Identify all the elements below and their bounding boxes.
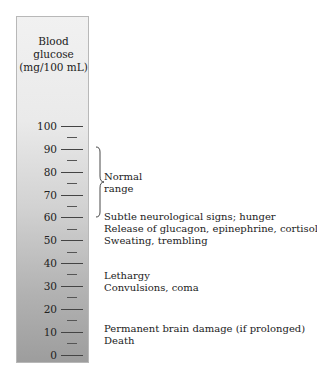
scale-title-line: Blood xyxy=(17,35,90,48)
minor-tick xyxy=(67,229,77,230)
note-line: Permanent brain damage (if prolonged) xyxy=(104,323,305,335)
tick-label: 60 xyxy=(17,211,57,223)
symptoms-60: Subtle neurological signs; hunger Releas… xyxy=(104,211,317,247)
minor-tick xyxy=(67,137,77,138)
tick-label: 10 xyxy=(17,326,57,338)
tick-label: 80 xyxy=(17,166,57,178)
major-tick xyxy=(61,217,83,218)
minor-tick xyxy=(67,343,77,344)
note-line: Lethargy xyxy=(104,270,199,282)
tick-label: 50 xyxy=(17,234,57,246)
note-line: Subtle neurological signs; hunger xyxy=(104,211,317,223)
major-tick xyxy=(61,309,83,310)
major-tick xyxy=(61,286,83,287)
note-line: Release of glucagon, epinephrine, cortis… xyxy=(104,223,317,235)
minor-tick xyxy=(67,252,77,253)
tick-label: 0 xyxy=(17,349,57,361)
major-tick xyxy=(61,149,83,150)
minor-tick xyxy=(67,183,77,184)
tick-label: 30 xyxy=(17,280,57,292)
major-tick xyxy=(61,172,83,173)
major-tick xyxy=(61,263,83,264)
tick-label: 90 xyxy=(17,143,57,155)
minor-tick xyxy=(67,297,77,298)
tick-label: 70 xyxy=(17,189,57,201)
major-tick xyxy=(61,126,83,127)
note-line: Normal xyxy=(104,171,142,183)
normal-range-label: Normal range xyxy=(104,171,142,195)
minor-tick xyxy=(67,274,77,275)
major-tick xyxy=(61,355,83,356)
note-line: Death xyxy=(104,335,305,347)
minor-tick xyxy=(67,320,77,321)
tick-label: 40 xyxy=(17,257,57,269)
scale-title-line: glucose xyxy=(17,48,90,61)
symptoms-10: Permanent brain damage (if prolonged) De… xyxy=(104,323,305,347)
symptoms-35: Lethargy Convulsions, coma xyxy=(104,270,199,294)
major-tick xyxy=(61,195,83,196)
note-line: Sweating, trembling xyxy=(104,235,317,247)
scale-title-line: (mg/100 mL) xyxy=(17,61,90,74)
note-line: Convulsions, coma xyxy=(104,282,199,294)
scale-title: Blood glucose (mg/100 mL) xyxy=(17,35,90,74)
minor-tick xyxy=(67,160,77,161)
tick-label: 20 xyxy=(17,303,57,315)
note-line: range xyxy=(104,183,142,195)
tick-label: 100 xyxy=(17,120,57,132)
glucose-scale-column: Blood glucose (mg/100 mL) 100 90 80 70 6… xyxy=(16,16,89,363)
minor-tick xyxy=(67,206,77,207)
major-tick xyxy=(61,240,83,241)
major-tick xyxy=(61,332,83,333)
